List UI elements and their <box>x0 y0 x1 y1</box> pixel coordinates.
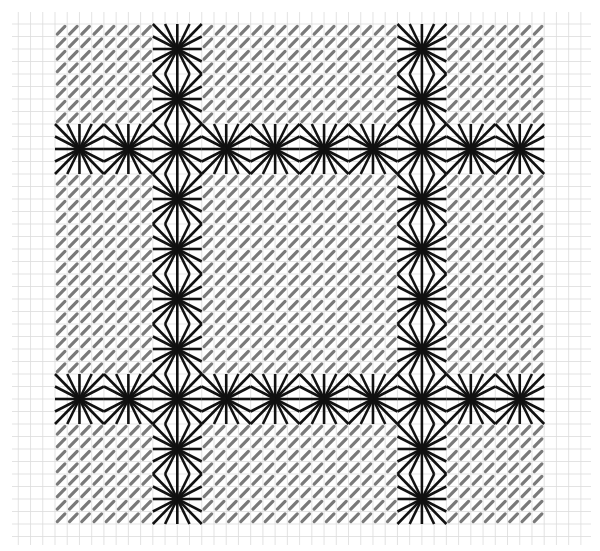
tent-stitch <box>70 489 78 497</box>
tent-stitch <box>131 476 139 484</box>
tent-stitch <box>57 364 65 372</box>
tent-stitch <box>449 276 457 284</box>
tent-stitch <box>449 64 457 72</box>
tent-stitch <box>277 189 285 197</box>
tent-stitch <box>204 264 212 272</box>
tent-stitch <box>510 51 518 59</box>
tent-stitch <box>241 239 249 247</box>
tent-stitch <box>253 364 261 372</box>
tent-stitch <box>498 501 506 509</box>
tent-stitch <box>485 226 493 234</box>
tent-stitch <box>204 289 212 297</box>
tent-stitch <box>216 314 224 322</box>
star-stitch <box>251 124 300 174</box>
tent-stitch <box>241 326 249 334</box>
tent-stitch <box>253 351 261 359</box>
tent-stitch <box>131 264 139 272</box>
tent-stitch <box>485 76 493 84</box>
tent-stitch <box>229 426 237 434</box>
tent-stitch <box>229 251 237 259</box>
tent-stitch <box>302 189 310 197</box>
tent-stitch <box>510 489 518 497</box>
tent-stitch <box>363 326 371 334</box>
tent-stitch <box>449 214 457 222</box>
star-stitch <box>495 124 544 174</box>
tent-stitch <box>449 89 457 97</box>
tent-stitch <box>510 314 518 322</box>
tent-stitch <box>216 189 224 197</box>
tent-stitch <box>461 114 469 122</box>
tent-stitch <box>118 326 126 334</box>
tent-stitch <box>253 51 261 59</box>
tent-stitch <box>351 89 359 97</box>
tent-stitch <box>510 176 518 184</box>
tent-stitch <box>314 289 322 297</box>
tent-stitch <box>241 39 249 47</box>
tent-stitch <box>216 239 224 247</box>
tent-stitch <box>131 489 139 497</box>
tent-stitch <box>485 501 493 509</box>
tent-stitch <box>461 251 469 259</box>
tent-stitch <box>473 289 481 297</box>
tent-stitch <box>498 64 506 72</box>
tent-stitch <box>339 289 347 297</box>
tent-stitch <box>216 226 224 234</box>
tent-stitch <box>131 464 139 472</box>
tent-stitch <box>229 89 237 97</box>
tent-stitch <box>375 364 383 372</box>
tent-stitch <box>485 101 493 109</box>
tent-stitch <box>302 339 310 347</box>
tent-stitch <box>339 264 347 272</box>
tent-stitch <box>253 114 261 122</box>
tent-stitch <box>70 451 78 459</box>
tent-stitch <box>461 39 469 47</box>
tent-stitch <box>70 214 78 222</box>
star-stitch <box>397 324 446 374</box>
tent-stitch <box>290 176 298 184</box>
tent-stitch <box>534 64 542 72</box>
tent-stitch <box>522 326 530 334</box>
tent-stitch <box>290 64 298 72</box>
tent-stitch <box>241 364 249 372</box>
tent-stitch <box>388 264 396 272</box>
tent-stitch <box>94 76 102 84</box>
tent-stitch <box>57 51 65 59</box>
tent-stitch <box>106 264 114 272</box>
tent-stitch <box>498 176 506 184</box>
tent-stitch <box>522 26 530 34</box>
star-stitch <box>495 374 544 424</box>
tent-stitch <box>388 489 396 497</box>
tent-stitch <box>118 226 126 234</box>
star-stitch <box>153 474 202 524</box>
tent-stitch <box>70 264 78 272</box>
tent-stitch <box>534 351 542 359</box>
tent-stitch <box>351 176 359 184</box>
tent-stitch <box>143 326 151 334</box>
tent-stitch <box>106 201 114 209</box>
tent-stitch <box>326 339 334 347</box>
tent-stitch <box>131 226 139 234</box>
tent-stitch <box>70 201 78 209</box>
tent-stitch <box>82 426 90 434</box>
tent-stitch <box>473 339 481 347</box>
tent-stitch <box>204 339 212 347</box>
tent-stitch <box>70 514 78 522</box>
tent-stitch <box>375 201 383 209</box>
tent-stitch <box>253 501 261 509</box>
tent-stitch <box>70 89 78 97</box>
tent-stitch <box>277 439 285 447</box>
tent-stitch <box>339 476 347 484</box>
tent-stitch <box>375 114 383 122</box>
tent-stitch <box>473 351 481 359</box>
star-stitch <box>446 374 495 424</box>
tent-stitch <box>498 351 506 359</box>
tent-stitch <box>143 276 151 284</box>
tent-stitch <box>388 176 396 184</box>
tent-stitch <box>265 439 273 447</box>
tent-stitch <box>131 301 139 309</box>
tent-stitch <box>118 39 126 47</box>
tent-stitch <box>485 464 493 472</box>
tent-stitch <box>82 264 90 272</box>
tent-stitch <box>522 426 530 434</box>
tent-stitch <box>534 51 542 59</box>
